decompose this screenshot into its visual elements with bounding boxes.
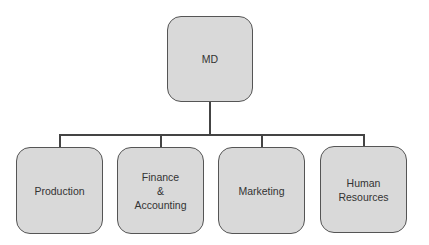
node-production: Production: [16, 147, 103, 234]
connector-marketing: [261, 134, 263, 147]
node-finance-accounting: Finance & Accounting: [117, 147, 204, 234]
node-label: MD: [202, 52, 218, 66]
node-human-resources: Human Resources: [320, 146, 407, 233]
connector-horizontal: [59, 134, 365, 136]
connector-finance: [160, 134, 162, 147]
node-label: Marketing: [238, 184, 284, 198]
node-label: Production: [34, 184, 84, 198]
connector-production: [59, 134, 61, 147]
node-label: Human Resources: [338, 176, 388, 204]
node-label: Finance & Accounting: [135, 170, 187, 212]
node-marketing: Marketing: [218, 147, 305, 234]
node-md: MD: [167, 16, 253, 102]
connector-root-vertical: [209, 102, 211, 135]
